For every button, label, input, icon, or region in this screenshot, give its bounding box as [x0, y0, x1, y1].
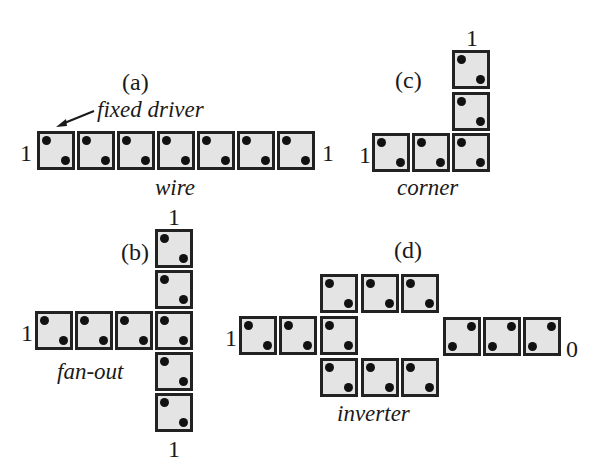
- qca-cell-inverted: [483, 317, 521, 356]
- electron-dot: [325, 363, 334, 372]
- electron-dot: [344, 341, 353, 350]
- qca-cell: [361, 274, 399, 313]
- panel-label-b: (b): [121, 240, 149, 264]
- electron-dot: [179, 336, 188, 345]
- electron-dot: [507, 322, 516, 331]
- electron-dot: [325, 279, 334, 288]
- electron-dot: [282, 136, 291, 145]
- electron-dot: [406, 363, 415, 372]
- electron-dot: [436, 158, 445, 167]
- qca-cell: [117, 131, 155, 170]
- electron-dot: [179, 377, 188, 386]
- electron-dot: [61, 156, 70, 165]
- electron-dot: [40, 316, 49, 325]
- electron-dot: [242, 136, 251, 145]
- wire-output-value: 1: [322, 141, 334, 165]
- electron-dot: [366, 279, 375, 288]
- qca-cell: [401, 358, 439, 397]
- electron-dot: [261, 156, 270, 165]
- electron-dot: [385, 383, 394, 392]
- electron-dot: [467, 322, 476, 331]
- electron-dot: [122, 136, 131, 145]
- electron-dot: [325, 321, 334, 330]
- qca-cell: [452, 92, 490, 131]
- qca-cell: [452, 50, 490, 89]
- electron-dot: [160, 398, 169, 407]
- qca-cell: [75, 311, 113, 350]
- qca-cell-split: [320, 316, 358, 355]
- caption-fan-out: fan-out: [57, 360, 123, 383]
- electron-dot: [221, 156, 230, 165]
- qca-cell: [77, 131, 115, 170]
- electron-dot: [179, 254, 188, 263]
- qca-cell: [35, 311, 73, 350]
- inverter-output-value: 0: [566, 337, 578, 361]
- electron-dot: [377, 138, 386, 147]
- fanout-output-bottom-value: 1: [168, 437, 180, 461]
- electron-dot: [457, 97, 466, 106]
- electron-dot: [528, 342, 537, 351]
- arrow-icon: [0, 0, 604, 472]
- panel-label-c: (c): [395, 68, 422, 92]
- electron-dot: [344, 299, 353, 308]
- qca-cell: [452, 133, 490, 172]
- qca-cell-inverted: [523, 317, 561, 356]
- qca-cell: [155, 352, 193, 391]
- qca-cell: [155, 270, 193, 309]
- qca-cell-driver: [37, 131, 75, 170]
- electron-dot: [160, 234, 169, 243]
- wire-input-value: 1: [20, 141, 32, 165]
- qca-cell: [239, 316, 277, 355]
- panel-label-d: (d): [394, 238, 422, 262]
- electron-dot: [101, 156, 110, 165]
- electron-dot: [263, 341, 272, 350]
- electron-dot: [457, 138, 466, 147]
- electron-dot: [179, 295, 188, 304]
- qca-cell: [157, 131, 195, 170]
- qca-cell: [115, 311, 153, 350]
- qca-cell: [197, 131, 235, 170]
- qca-cell: [320, 358, 358, 397]
- electron-dot: [396, 158, 405, 167]
- electron-dot: [162, 136, 171, 145]
- electron-dot: [202, 136, 211, 145]
- electron-dot: [547, 322, 556, 331]
- electron-dot: [457, 55, 466, 64]
- electron-dot: [244, 321, 253, 330]
- corner-output-value: 1: [466, 26, 478, 50]
- fanout-output-top-value: 1: [168, 205, 180, 229]
- electron-dot: [301, 156, 310, 165]
- inverter-input-value: 1: [225, 326, 237, 350]
- electron-dot: [179, 418, 188, 427]
- electron-dot: [284, 321, 293, 330]
- electron-dot: [141, 156, 150, 165]
- caption-wire: wire: [155, 176, 195, 199]
- electron-dot: [160, 357, 169, 366]
- electron-dot: [160, 316, 169, 325]
- electron-dot: [476, 117, 485, 126]
- qca-cell: [412, 133, 450, 172]
- electron-dot: [385, 299, 394, 308]
- electron-dot: [59, 336, 68, 345]
- qca-cell: [401, 274, 439, 313]
- electron-dot: [99, 336, 108, 345]
- qca-cell: [155, 229, 193, 268]
- electron-dot: [488, 342, 497, 351]
- electron-dot: [448, 342, 457, 351]
- qca-cell: [279, 316, 317, 355]
- electron-dot: [344, 383, 353, 392]
- fanout-input-value: 1: [21, 321, 33, 345]
- electron-dot: [476, 75, 485, 84]
- electron-dot: [425, 383, 434, 392]
- qca-cell: [237, 131, 275, 170]
- electron-dot: [139, 336, 148, 345]
- electron-dot: [160, 275, 169, 284]
- caption-inverter: inverter: [337, 402, 410, 425]
- electron-dot: [120, 316, 129, 325]
- qca-cell: [372, 133, 410, 172]
- qca-cell: [277, 131, 315, 170]
- electron-dot: [42, 136, 51, 145]
- corner-input-value: 1: [359, 143, 371, 167]
- electron-dot: [417, 138, 426, 147]
- qca-cell: [320, 274, 358, 313]
